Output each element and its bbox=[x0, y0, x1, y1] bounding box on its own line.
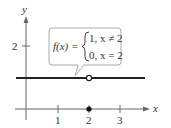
open-point bbox=[86, 75, 91, 80]
x-tick-label-3: 3 bbox=[117, 114, 123, 126]
y-axis-label: y bbox=[21, 3, 27, 15]
closed-point bbox=[86, 106, 91, 111]
callout-case-2: 0, x = 2 bbox=[89, 49, 123, 61]
x-tick-label-1: 1 bbox=[55, 114, 61, 126]
callout-lhs: f(x) = bbox=[53, 40, 78, 53]
callout-case-1: 1, x ≠ 2 bbox=[89, 32, 123, 44]
x-axis-label: x bbox=[152, 102, 158, 114]
x-axis-arrow-icon bbox=[143, 107, 150, 112]
y-tick-label-2: 2 bbox=[12, 40, 18, 52]
function-graph: y x 1 2 3 2 f(x) = 1, x ≠ 2 0, x = 2 bbox=[0, 0, 171, 128]
y-axis-arrow-icon bbox=[24, 16, 29, 23]
x-tick-label-2: 2 bbox=[86, 114, 92, 126]
